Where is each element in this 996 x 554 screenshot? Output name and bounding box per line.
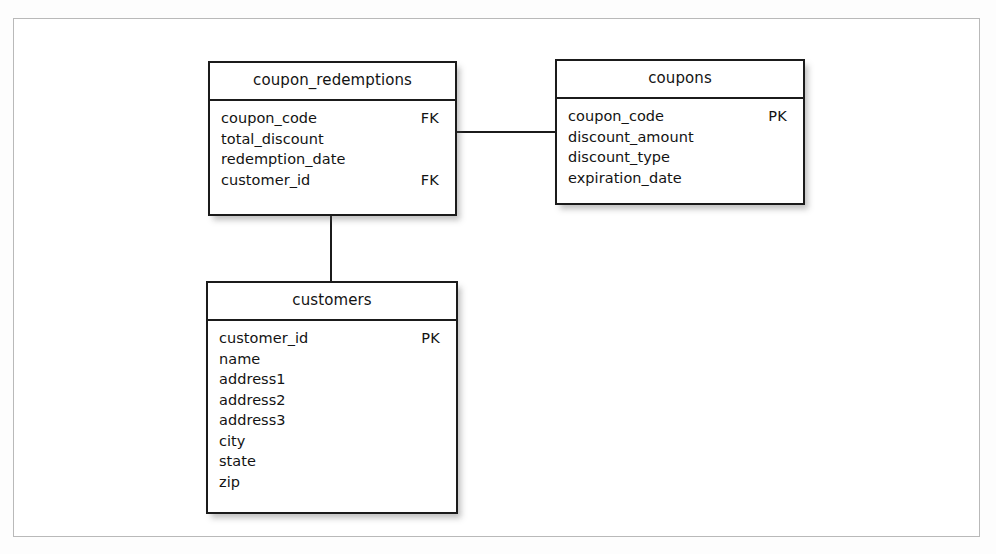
field-row: discount_type [557, 147, 803, 168]
field-row: state [208, 451, 456, 472]
field-name: address3 [219, 410, 286, 431]
field-key-badge: FK [421, 170, 439, 191]
entity-field-list: coupon_code PK discount_amount discount_… [557, 99, 803, 196]
field-name: address2 [219, 390, 286, 411]
entity-title: coupons [557, 61, 803, 99]
entity-customers[interactable]: customers customer_id PK name address1 a… [206, 281, 458, 514]
field-name: redemption_date [221, 149, 346, 170]
entity-coupon-redemptions[interactable]: coupon_redemptions coupon_code FK total_… [208, 61, 457, 216]
connector-coupon-redemptions-to-customers [330, 214, 332, 283]
field-name: coupon_code [568, 106, 664, 127]
entity-title: customers [208, 283, 456, 321]
field-row: total_discount [210, 129, 455, 150]
entity-field-list: coupon_code FK total_discount redemption… [210, 101, 455, 198]
field-name: expiration_date [568, 168, 682, 189]
field-row: name [208, 349, 456, 370]
field-row: customer_id FK [210, 170, 455, 191]
diagram-frame: coupon_redemptions coupon_code FK total_… [13, 18, 980, 537]
entity-field-list: customer_id PK name address1 address2 ad… [208, 321, 456, 500]
entity-title: coupon_redemptions [210, 63, 455, 101]
field-name: address1 [219, 369, 286, 390]
field-name: customer_id [221, 170, 310, 191]
field-row: discount_amount [557, 127, 803, 148]
field-name: name [219, 349, 260, 370]
field-name: total_discount [221, 129, 324, 150]
field-key-badge: FK [421, 108, 439, 129]
field-row: address1 [208, 369, 456, 390]
field-name: coupon_code [221, 108, 317, 129]
field-key-badge: PK [768, 106, 787, 127]
field-row: city [208, 431, 456, 452]
field-name: discount_type [568, 147, 670, 168]
field-name: state [219, 451, 256, 472]
connector-coupon-redemptions-to-coupons [454, 131, 557, 133]
field-row: expiration_date [557, 168, 803, 189]
field-name: discount_amount [568, 127, 694, 148]
field-row: redemption_date [210, 149, 455, 170]
field-row: address3 [208, 410, 456, 431]
field-row: zip [208, 472, 456, 493]
field-name: zip [219, 472, 240, 493]
field-row: coupon_code FK [210, 108, 455, 129]
field-key-badge: PK [421, 328, 440, 349]
entity-coupons[interactable]: coupons coupon_code PK discount_amount d… [555, 59, 805, 205]
field-row: address2 [208, 390, 456, 411]
field-row: customer_id PK [208, 328, 456, 349]
field-name: customer_id [219, 328, 308, 349]
field-row: coupon_code PK [557, 106, 803, 127]
field-name: city [219, 431, 245, 452]
